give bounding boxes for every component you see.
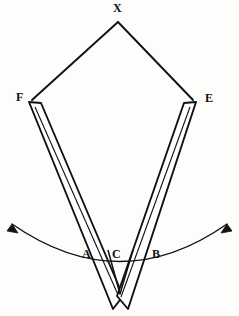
swing-arc-left-arrowhead (7, 224, 18, 233)
kite-upper-right-edge (118, 22, 193, 100)
vertex-label-b: B (152, 248, 161, 260)
left-wedge-inner-hairline (35, 107, 119, 297)
vertex-label-f: F (16, 91, 24, 103)
vertex-label-c: C (112, 248, 121, 260)
vertex-label-e: E (205, 92, 214, 104)
vertex-label-a: A (82, 248, 91, 260)
right-wedge-arm (117, 102, 196, 309)
figure-canvas (0, 0, 239, 316)
kite-upper-left-edge (32, 22, 118, 100)
left-wedge-arm (29, 102, 123, 309)
geometry-figure: X F E A C B (0, 0, 239, 316)
right-wedge-inner-hairline (121, 107, 190, 297)
vertex-label-x: X (113, 2, 122, 14)
swing-arc-right-arrowhead (221, 224, 232, 233)
